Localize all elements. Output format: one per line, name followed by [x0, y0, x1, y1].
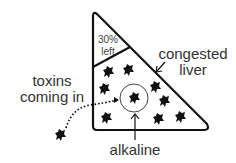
alkaline-label: alkaline [100, 142, 170, 157]
percent-value: 30% [95, 35, 121, 45]
toxins-text: toxins [12, 73, 92, 88]
congested-liver-label: congested liver [153, 46, 233, 77]
coming-in-text: coming in [12, 89, 92, 104]
percent-left-label: 30% left [95, 35, 121, 57]
toxins-coming-in-label: toxins coming in [12, 73, 92, 104]
left-text: left [95, 47, 121, 57]
congested-text: congested [153, 46, 233, 61]
liver-text: liver [153, 62, 233, 77]
